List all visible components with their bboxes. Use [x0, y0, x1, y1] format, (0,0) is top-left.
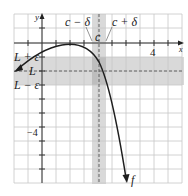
c-plus-delta-label: c + δ: [112, 16, 137, 28]
L-label: L: [29, 65, 36, 77]
function-label: f: [131, 174, 134, 186]
c-label: c: [95, 31, 100, 43]
L-minus-epsilon-label: L − ε: [14, 79, 39, 91]
L-plus-epsilon-label: L + ε: [14, 51, 39, 63]
epsilon-delta-figure: [0, 0, 188, 196]
c-minus-delta-leader: [86, 27, 92, 41]
x-tick-label-4: 4: [150, 47, 156, 58]
c-plus-delta-leader: [106, 27, 112, 41]
y-axis-label: y: [35, 13, 39, 22]
c-minus-delta-label: c − δ: [65, 16, 90, 28]
x-axis-label: x: [179, 46, 183, 54]
y-tick-label-neg4: −4: [27, 128, 38, 138]
